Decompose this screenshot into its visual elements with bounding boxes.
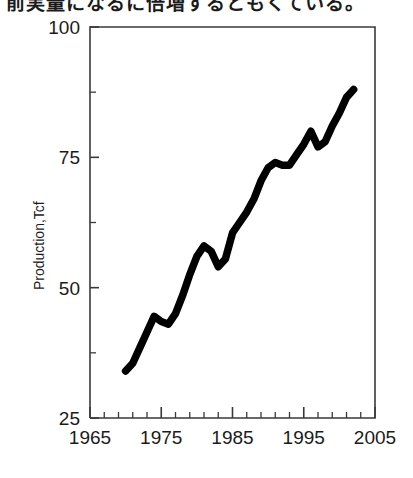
y-tick-label: 50 [59,278,80,299]
y-tick-label: 75 [59,147,80,168]
x-tick-label: 1995 [283,427,325,448]
y-axis-title: Production,Tcf [31,201,47,290]
x-tick-label: 1965 [69,427,111,448]
y-axis-tick-labels: 255075100 [48,17,80,429]
y-tick-label: 100 [48,17,80,38]
data-series-group [126,90,354,372]
y-tick-label: 25 [59,408,80,429]
x-tick-label: 1985 [211,427,253,448]
x-tick-label: 2005 [354,427,396,448]
y-axis-minor-ticks [90,92,96,353]
chart-canvas: 255075100 19651975198519952005 Productio… [0,0,413,478]
x-tick-label: 1975 [140,427,182,448]
production-line-chart: 255075100 19651975198519952005 Productio… [0,0,413,478]
x-axis-tick-labels: 19651975198519952005 [69,427,396,448]
series-line-production [126,90,354,372]
